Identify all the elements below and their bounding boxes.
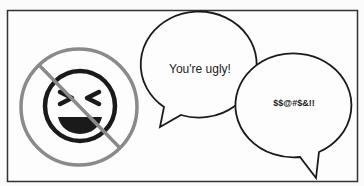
illustration: You're ugly! $$@#$&!! [0, 0, 364, 186]
bubble-left-text: You're ugly! [169, 62, 231, 76]
bubble-right-text: $$@#$&!! [273, 98, 314, 108]
